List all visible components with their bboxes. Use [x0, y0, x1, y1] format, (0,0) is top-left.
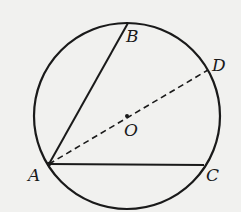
label-a: A [28, 167, 40, 184]
label-o: O [124, 122, 138, 139]
label-d: D [212, 57, 226, 74]
vertex-point-a [47, 162, 51, 166]
chord-ab [49, 23, 128, 164]
center-point-o [125, 114, 129, 118]
chord-ac [49, 164, 204, 165]
label-b: B [126, 28, 139, 45]
label-c: C [206, 167, 219, 184]
geometry-diagram: B D O A C [0, 0, 241, 212]
